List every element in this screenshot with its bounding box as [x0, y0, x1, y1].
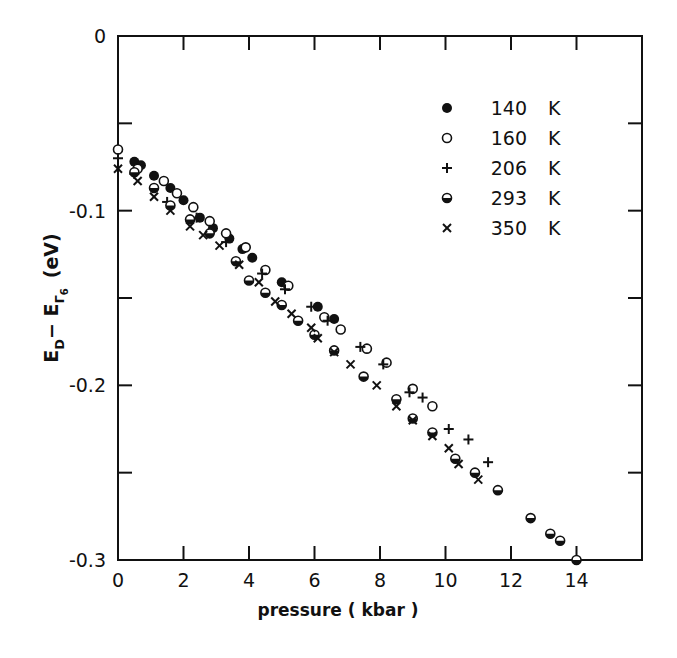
open-circle-marker [205, 217, 214, 226]
legend-label: 293 [491, 187, 527, 209]
open-circle-marker [428, 402, 437, 411]
legend-label: 160 [491, 127, 527, 149]
open-circle-marker [443, 134, 452, 143]
half-filled-circle-marker [572, 556, 581, 565]
cross-marker [474, 476, 482, 484]
legend-label: 140 [491, 97, 527, 119]
x-tick-label: 8 [374, 569, 386, 591]
cross-marker [150, 193, 158, 201]
filled-circle-marker [329, 314, 339, 324]
plot-border [118, 36, 642, 560]
cross-marker [288, 310, 296, 318]
open-circle-marker [222, 229, 231, 238]
x-axis-title: pressure ( kbar ) [258, 600, 419, 620]
y-tick-label: -0.1 [69, 200, 106, 222]
cross-marker [216, 242, 224, 250]
half-filled-circle-marker [556, 536, 565, 545]
half-filled-circle-marker [205, 229, 214, 238]
ylabel-sub-6: 6 [59, 288, 70, 295]
x-tick-labels: 02468101214 [112, 569, 589, 591]
legend-item: 160K [443, 127, 562, 149]
open-circle-marker [241, 243, 250, 252]
ylabel-minus-e: − E [40, 303, 62, 339]
legend-unit: K [548, 127, 561, 149]
half-filled-circle-marker [359, 372, 368, 381]
cross-marker [443, 224, 451, 232]
y-tick-label: 0 [94, 25, 106, 47]
filled-circle-marker [442, 103, 452, 113]
legend-unit: K [548, 217, 561, 239]
cross-marker [373, 381, 381, 389]
open-circle-marker [336, 325, 345, 334]
filled-circle-marker [247, 253, 257, 263]
x-tick-label: 6 [308, 569, 320, 591]
y-tick-labels: 0-0.1-0.2-0.3 [69, 25, 106, 571]
legend-label: 350 [491, 217, 527, 239]
cross-marker [307, 324, 315, 332]
series-160k [114, 145, 437, 411]
half-filled-circle-marker [130, 168, 139, 177]
open-circle-marker [362, 344, 371, 353]
cross-marker [134, 177, 142, 185]
ylabel-sub-gamma: Γ [52, 295, 67, 303]
x-tick-label: 0 [112, 569, 124, 591]
open-circle-marker [114, 145, 123, 154]
axis-ticks [118, 36, 642, 560]
legend-item: 350K [443, 217, 561, 239]
half-filled-circle-marker [443, 194, 452, 203]
half-filled-circle-marker [526, 514, 535, 523]
x-tick-label: 2 [177, 569, 189, 591]
legend: 140K160K206K293K350K [442, 97, 561, 239]
cross-marker [347, 360, 355, 368]
filled-circle-marker [149, 171, 159, 181]
cross-marker [255, 278, 263, 286]
legend-unit: K [548, 157, 561, 179]
open-circle-marker [189, 203, 198, 212]
legend-item: 293K [443, 187, 562, 209]
plus-marker [483, 457, 493, 467]
scatter-chart: 02468101214 0-0.1-0.2-0.3 pressure ( kba… [0, 0, 677, 658]
x-tick-label: 4 [243, 569, 255, 591]
open-circle-marker [159, 176, 168, 185]
y-axis-title: ED− EΓ6(eV) [40, 233, 70, 363]
legend-unit: K [548, 97, 561, 119]
plot-frame [118, 36, 642, 560]
x-tick-label: 14 [564, 569, 588, 591]
half-filled-circle-marker [150, 183, 159, 192]
legend-item: 140K [442, 97, 561, 119]
x-tick-label: 10 [433, 569, 457, 591]
half-filled-circle-marker [493, 486, 502, 495]
legend-label: 206 [491, 157, 527, 179]
y-tick-label: -0.3 [69, 549, 106, 571]
plus-marker [442, 163, 452, 173]
legend-item: 206K [442, 157, 561, 179]
half-filled-circle-marker [546, 529, 555, 538]
x-tick-label: 12 [499, 569, 523, 591]
half-filled-circle-marker [261, 288, 270, 297]
svg-text:ED− EΓ6(eV): ED− EΓ6(eV) [40, 233, 70, 363]
y-tick-label: -0.2 [69, 374, 106, 396]
ylabel-e: E [40, 350, 62, 363]
ylabel-unit: (eV) [40, 233, 62, 278]
plus-marker [113, 153, 123, 163]
open-circle-marker [172, 189, 181, 198]
plus-marker [463, 434, 473, 444]
legend-unit: K [548, 187, 561, 209]
plus-marker [444, 424, 454, 434]
half-filled-circle-marker [245, 276, 254, 285]
plus-marker [418, 393, 428, 403]
cross-marker [445, 444, 453, 452]
ylabel-sub-d: D [52, 339, 67, 350]
